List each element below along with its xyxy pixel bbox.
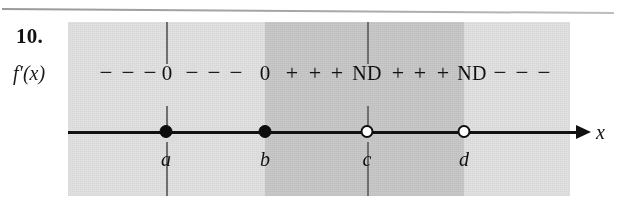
point-label-d: d — [459, 148, 469, 171]
sign-minus-0: − — [100, 58, 113, 88]
shaded-panel — [68, 22, 570, 196]
point-marker-b — [259, 125, 272, 138]
sign-plus-13: + — [414, 58, 426, 88]
sign-plus-12: + — [392, 58, 404, 88]
function-label: f′(x) — [13, 62, 45, 85]
sign-nd-15: ND — [457, 58, 486, 88]
sign-chart-figure: 10. f′(x) −−−0−−−0+++ND+++ND−−− x abcd — [0, 0, 617, 205]
sign-minus-2: − — [144, 58, 157, 88]
sign-minus-16: − — [494, 58, 507, 88]
point-marker-a — [160, 125, 173, 138]
sign-minus-18: − — [538, 58, 551, 88]
sign-plus-10: + — [331, 58, 343, 88]
sign-nd-11: ND — [352, 58, 381, 88]
axis-arrowhead-icon — [576, 125, 591, 139]
sign-zero-7: 0 — [260, 58, 271, 88]
sign-row: −−−0−−−0+++ND+++ND−−− — [68, 58, 570, 88]
point-marker-c — [361, 125, 374, 138]
point-label-c: c — [363, 148, 372, 171]
sign-minus-4: − — [186, 58, 199, 88]
sign-plus-8: + — [286, 58, 298, 88]
problem-number: 10. — [16, 24, 43, 49]
sign-minus-1: − — [122, 58, 135, 88]
page-divider-rule — [2, 8, 614, 14]
sign-plus-14: + — [437, 58, 449, 88]
band-right — [464, 22, 570, 196]
sign-plus-9: + — [309, 58, 321, 88]
sign-minus-17: − — [516, 58, 529, 88]
point-label-a: a — [161, 148, 171, 171]
sign-zero-3: 0 — [162, 58, 173, 88]
axis-variable-label: x — [596, 121, 605, 144]
sign-minus-6: − — [230, 58, 243, 88]
sign-minus-5: − — [208, 58, 221, 88]
number-line-axis — [68, 131, 578, 134]
point-label-b: b — [260, 148, 270, 171]
point-marker-d — [458, 125, 471, 138]
